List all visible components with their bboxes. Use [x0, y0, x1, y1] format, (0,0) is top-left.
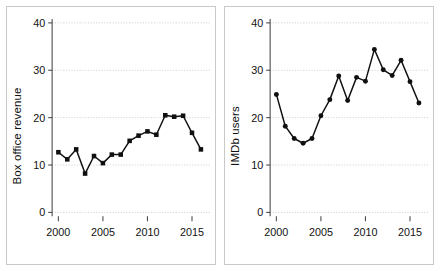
plot-area-right: 0102030402000200520102015: [225, 7, 433, 264]
data-point-marker: [83, 171, 88, 176]
data-point-marker: [65, 157, 70, 162]
data-point-marker: [163, 113, 168, 118]
y-tick-label: 0: [39, 206, 45, 218]
plot-area-left: 0102030402000200520102015: [7, 7, 215, 264]
data-point-marker: [92, 154, 97, 159]
chart-svg-left: 0102030402000200520102015: [7, 7, 215, 264]
data-point-marker: [118, 152, 123, 157]
x-tick-label: 2015: [398, 226, 422, 238]
x-tick-label: 2005: [309, 226, 333, 238]
x-tick-label: 2010: [353, 226, 377, 238]
data-line: [276, 49, 419, 143]
data-point-marker: [354, 75, 359, 80]
x-tick-label: 2000: [264, 226, 288, 238]
data-point-marker: [399, 58, 404, 63]
data-point-marker: [172, 114, 177, 119]
data-point-marker: [127, 139, 132, 144]
data-point-marker: [283, 124, 288, 129]
y-tick-label: 30: [251, 64, 263, 76]
data-point-marker: [408, 79, 413, 84]
data-point-marker: [336, 73, 341, 78]
y-tick-label: 10: [33, 159, 45, 171]
data-point-marker: [136, 133, 141, 138]
data-point-marker: [327, 97, 332, 102]
data-point-marker: [74, 147, 79, 152]
data-point-marker: [199, 147, 204, 152]
y-tick-label: 20: [33, 112, 45, 124]
panel-imdb-users: IMDb users 0102030402000200520102015: [224, 6, 434, 265]
figure-container: Box office revenue 010203040200020052010…: [0, 0, 440, 271]
data-point-marker: [372, 47, 377, 52]
chart-svg-right: 0102030402000200520102015: [225, 7, 433, 264]
data-point-marker: [416, 100, 421, 105]
y-tick-label: 40: [33, 17, 45, 29]
data-point-marker: [318, 113, 323, 118]
y-tick-label: 20: [251, 112, 263, 124]
y-tick-label: 0: [257, 206, 263, 218]
y-tick-label: 30: [33, 64, 45, 76]
data-point-marker: [345, 98, 350, 103]
data-point-marker: [363, 79, 368, 84]
data-point-marker: [310, 136, 315, 141]
data-point-marker: [190, 131, 195, 136]
data-point-marker: [274, 92, 279, 97]
data-point-marker: [101, 161, 106, 166]
data-point-marker: [56, 150, 61, 155]
data-point-marker: [154, 132, 159, 137]
x-tick-label: 2010: [135, 226, 159, 238]
x-tick-label: 2005: [91, 226, 115, 238]
x-tick-label: 2015: [180, 226, 204, 238]
data-point-marker: [390, 73, 395, 78]
data-point-marker: [181, 113, 186, 118]
panel-box-office-revenue: Box office revenue 010203040200020052010…: [6, 6, 216, 265]
y-tick-label: 40: [251, 17, 263, 29]
data-point-marker: [292, 136, 297, 141]
data-point-marker: [301, 141, 306, 146]
y-tick-label: 10: [251, 159, 263, 171]
x-tick-label: 2000: [46, 226, 70, 238]
data-point-marker: [145, 129, 150, 134]
data-point-marker: [110, 152, 115, 157]
data-point-marker: [381, 67, 386, 72]
